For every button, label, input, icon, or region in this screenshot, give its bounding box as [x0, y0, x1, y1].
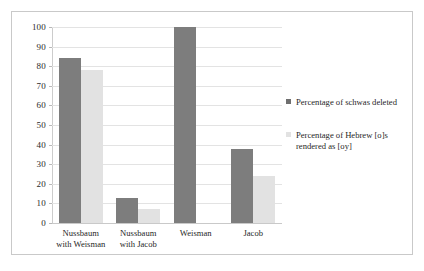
y-tick-mark-100 — [49, 27, 52, 28]
y-tick-mark-60 — [49, 105, 52, 106]
legend-swatch-icon-series-a — [286, 99, 291, 104]
bar-0-series-b[interactable] — [81, 70, 103, 223]
bar-2-series-a[interactable] — [174, 27, 196, 223]
legend-label-series-b: Percentage of Hebrew [o]s rendered as [o… — [296, 130, 388, 151]
y-tick-mark-40 — [49, 145, 52, 146]
y-tick-mark-70 — [49, 86, 52, 87]
bar-1-series-b[interactable] — [138, 209, 160, 223]
bar-0-series-a[interactable] — [59, 58, 81, 223]
y-axis-tick-label-80: 80 — [37, 61, 46, 71]
bar-1-series-a[interactable] — [116, 198, 138, 223]
bar-group-1 — [116, 27, 160, 223]
y-axis-tick-label-20: 20 — [37, 179, 46, 189]
legend-entry-schwas-deleted: Percentage of schwas deleted — [284, 97, 416, 108]
y-tick-mark-30 — [49, 164, 52, 165]
y-tick-mark-10 — [49, 203, 52, 204]
y-tick-mark-90 — [49, 47, 52, 48]
x-axis-tick-label-line: with Jacob — [101, 239, 175, 250]
y-axis-tick-label-30: 30 — [37, 159, 46, 169]
y-axis-tick-label-100: 100 — [32, 22, 46, 32]
bar-3-series-b[interactable] — [253, 176, 275, 223]
bar-3-series-a[interactable] — [231, 149, 253, 223]
y-axis-tick-label-90: 90 — [37, 42, 46, 52]
y-tick-mark-0 — [49, 223, 52, 224]
y-axis-tick-label-60: 60 — [37, 100, 46, 110]
bar-group-0 — [59, 27, 103, 223]
y-tick-mark-50 — [49, 125, 52, 126]
plot-area: 0102030405060708090100 Nussbaumwith Weis… — [52, 27, 282, 223]
chart-legend: Percentage of schwas deleted Percentage … — [284, 97, 416, 174]
y-axis-tick-label-40: 40 — [37, 140, 46, 150]
bar-group-2 — [174, 27, 218, 223]
y-axis-tick-label-70: 70 — [37, 81, 46, 91]
y-axis-tick-label-10: 10 — [37, 198, 46, 208]
y-axis-tick-label-0: 0 — [41, 218, 46, 228]
legend-entry-hebrew-o-rendered-oy: Percentage of Hebrew [o]s rendered as [o… — [284, 130, 416, 152]
legend-swatch-icon-series-b — [286, 132, 291, 137]
gridline-0 — [52, 223, 282, 224]
y-tick-mark-20 — [49, 184, 52, 185]
bar-group-3 — [231, 27, 275, 223]
x-axis-tick-label-line: Jacob — [216, 228, 290, 239]
chart-frame: 0102030405060708090100 Nussbaumwith Weis… — [11, 11, 413, 255]
legend-label-series-a: Percentage of schwas deleted — [296, 97, 397, 107]
y-axis-tick-label-50: 50 — [37, 120, 46, 130]
y-tick-mark-80 — [49, 66, 52, 67]
x-axis-tick-label-3: Jacob — [216, 228, 290, 239]
